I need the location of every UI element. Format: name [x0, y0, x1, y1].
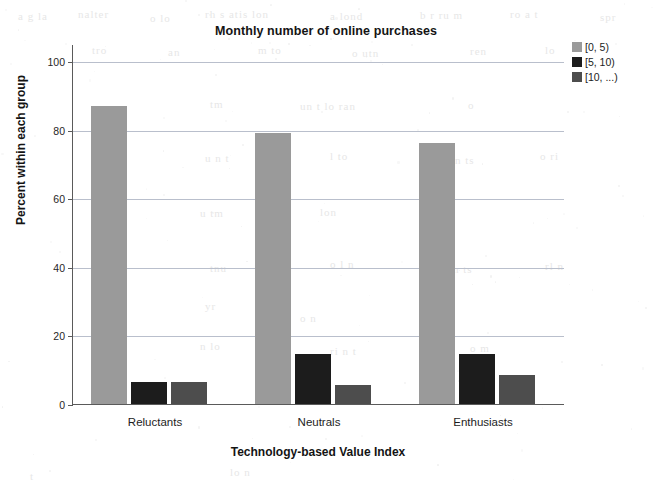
y-axis-tick-label: 100 — [47, 56, 65, 68]
x-axis-category-label: Reluctants — [73, 416, 237, 428]
legend-label: [0, 5) — [585, 41, 609, 53]
bar[interactable] — [131, 382, 167, 404]
bar[interactable] — [91, 106, 127, 404]
bar[interactable] — [335, 385, 371, 404]
x-axis-category-label: Enthusiasts — [401, 416, 565, 428]
y-axis-title: Percent within each group — [14, 75, 28, 225]
legend-swatch-icon — [572, 42, 582, 52]
bar[interactable] — [419, 143, 455, 404]
chart-legend: [0, 5)[5, 10)[10, ...) — [572, 40, 644, 85]
y-axis-tick-label: 0 — [59, 399, 65, 411]
legend-item[interactable]: [10, ...) — [572, 70, 644, 84]
x-axis-category-label: Neutrals — [237, 416, 401, 428]
bar-group: Neutrals — [237, 45, 401, 404]
bar-group: Enthusiasts — [401, 45, 565, 404]
bar[interactable] — [499, 375, 535, 404]
bar-group: Reluctants — [73, 45, 237, 404]
bar[interactable] — [295, 354, 331, 404]
legend-label: [5, 10) — [585, 56, 615, 68]
legend-item[interactable]: [0, 5) — [572, 40, 644, 54]
legend-label: [10, ...) — [585, 71, 618, 83]
y-axis-tick — [68, 405, 73, 406]
y-axis-tick-label: 60 — [53, 193, 65, 205]
x-axis-title: Technology-based Value Index — [72, 445, 564, 459]
y-axis-tick-label: 20 — [53, 330, 65, 342]
legend-swatch-icon — [572, 57, 582, 67]
legend-swatch-icon — [572, 72, 582, 82]
chart-title: Monthly number of online purchases — [0, 24, 652, 38]
y-axis-tick-label: 80 — [53, 125, 65, 137]
bar[interactable] — [171, 382, 207, 404]
bar[interactable] — [459, 354, 495, 404]
y-axis-tick-label: 40 — [53, 262, 65, 274]
bar[interactable] — [255, 133, 291, 404]
legend-item[interactable]: [5, 10) — [572, 55, 644, 69]
plot-area: 020406080100ReluctantsNeutralsEnthusiast… — [72, 45, 564, 405]
